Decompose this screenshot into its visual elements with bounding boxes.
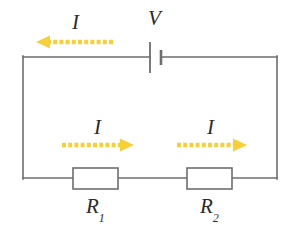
- resistor-2-label: R2: [200, 196, 219, 220]
- top-current-arrow: [36, 36, 113, 49]
- left-branch-current-arrow: [62, 139, 134, 152]
- resistor-2-subscript: 2: [213, 211, 219, 225]
- resistor-1-box: [73, 168, 118, 189]
- right-branch-current-arrow-head: [233, 139, 247, 152]
- left-branch-current-label: I: [94, 117, 101, 138]
- battery-symbol: [150, 42, 161, 73]
- top-current-label: I: [72, 12, 79, 33]
- right-branch-current-arrow: [177, 139, 247, 152]
- circuit-schematic-svg: [0, 0, 302, 234]
- voltage-source-label: V: [148, 8, 161, 29]
- circuit-loop-wires: [23, 56, 277, 179]
- resistor-1-subscript: 1: [99, 211, 105, 225]
- resistor-2-box: [187, 168, 232, 189]
- resistor-1-label: R1: [86, 196, 105, 220]
- resistor-1-symbol: R: [86, 194, 99, 218]
- left-branch-current-arrow-head: [120, 139, 134, 152]
- top-current-arrow-head: [36, 36, 50, 49]
- circuit-diagram-canvas: V I I I R1 R2: [0, 0, 302, 234]
- right-branch-current-label: I: [207, 117, 214, 138]
- resistor-2-symbol: R: [200, 194, 213, 218]
